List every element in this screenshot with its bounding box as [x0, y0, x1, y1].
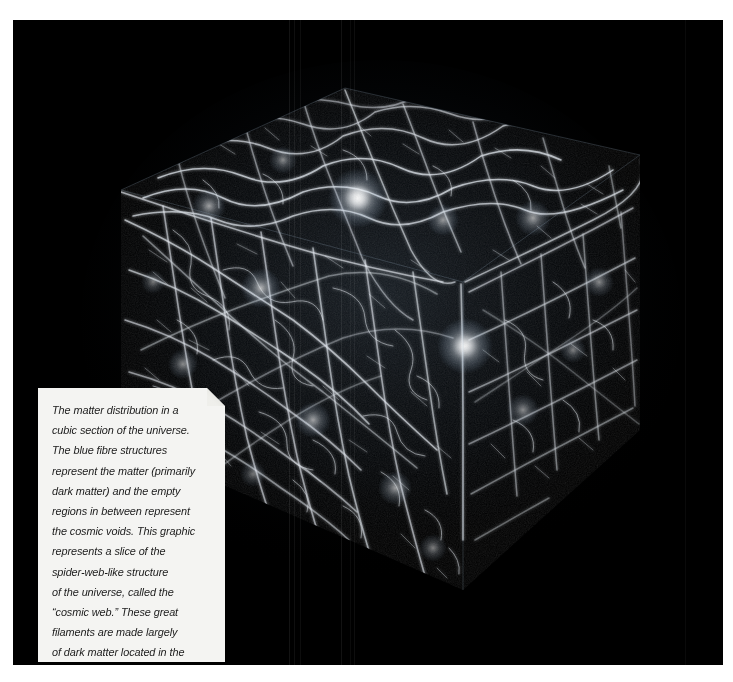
- figure-page: The matter distribution in a cubic secti…: [0, 0, 733, 682]
- caption-panel: The matter distribution in a cubic secti…: [38, 388, 225, 662]
- caption-text: The matter distribution in a cubic secti…: [52, 400, 205, 682]
